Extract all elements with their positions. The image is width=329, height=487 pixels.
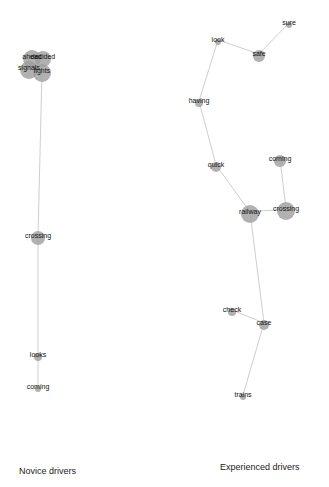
node-label-crossing: crossing	[25, 232, 51, 240]
node-label-look: look	[212, 36, 225, 43]
edge-railway-case	[250, 212, 264, 323]
edge-having-quick	[199, 101, 216, 165]
edge-case-trains	[243, 323, 264, 395]
node-label-lights: lights	[34, 67, 51, 75]
node-label-decided: decided	[31, 53, 56, 60]
node-label-crossing: crossing	[273, 205, 299, 213]
experienced-network: surelooksafehavingquickcomingrailwaycros…	[189, 19, 299, 400]
network-graph: aheaddecidedsignalslightscrossinglooksco…	[0, 0, 329, 487]
edge-quick-railway	[216, 165, 250, 212]
node-label-check: check	[223, 306, 242, 313]
node-label-trains: trains	[234, 391, 252, 398]
node-label-looks: looks	[30, 351, 47, 358]
node-label-having: having	[189, 97, 210, 105]
novice-network: aheaddecidedsignalslightscrossinglooksco…	[18, 50, 55, 392]
caption-experienced-drivers: Experienced drivers	[220, 462, 300, 472]
node-label-case: case	[257, 319, 272, 326]
node-label-coming: coming	[269, 155, 292, 163]
node-label-quick: quick	[208, 161, 225, 169]
node-label-sure: sure	[282, 19, 296, 26]
node-label-safe: safe	[252, 50, 265, 57]
node-label-coming: coming	[27, 383, 50, 391]
edge-lights-crossing	[38, 71, 42, 236]
node-label-railway: railway	[239, 208, 261, 216]
edge-look-having	[199, 40, 218, 101]
caption-novice-drivers: Novice drivers	[19, 466, 76, 476]
